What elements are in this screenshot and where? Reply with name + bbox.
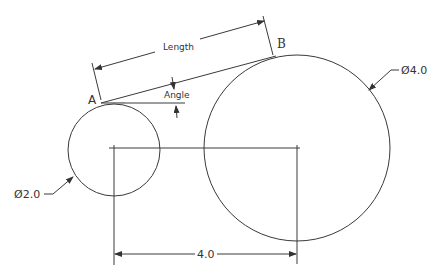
length-dimension-line-left (95, 52, 155, 69)
cad-drawing: Length Angle A B 4.0 Ø2.0 Ø4.0 (0, 0, 439, 277)
point-a-label: A (88, 93, 97, 107)
length-dimension-line-right (200, 21, 264, 39)
drawing-svg: Length Angle A B 4.0 Ø2.0 Ø4.0 (0, 0, 439, 277)
angle-arrow-bottom (176, 106, 177, 118)
small-diameter-leader (44, 177, 73, 194)
large-diameter-leader (369, 70, 399, 90)
small-diameter-label: Ø2.0 (14, 188, 40, 201)
center-distance-label: 4.0 (197, 248, 215, 261)
point-b-label: B (277, 37, 286, 51)
angle-label: Angle (164, 90, 190, 100)
length-extension-right (263, 16, 273, 55)
large-diameter-label: Ø4.0 (401, 64, 427, 77)
length-label: Length (163, 42, 194, 52)
